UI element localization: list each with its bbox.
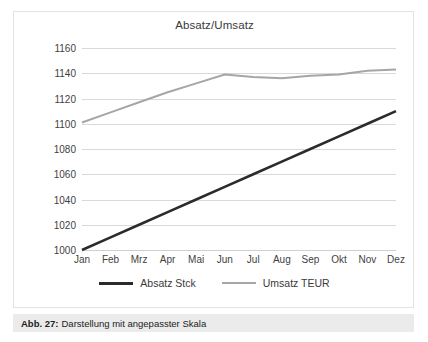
legend-swatch xyxy=(99,282,133,285)
y-axis-tick-label: 1120 xyxy=(32,93,76,104)
x-axis-tick-label: Nov xyxy=(359,254,377,265)
figure-caption-bar: Abb. 27: Darstellung mit angepasster Ska… xyxy=(13,314,414,332)
x-axis-tick-label: Jan xyxy=(74,254,90,265)
y-axis-tick-label: 1080 xyxy=(32,144,76,155)
chart-legend: Absatz StckUmsatz TEUR xyxy=(14,277,415,289)
x-axis-tick-label: Mrz xyxy=(131,254,148,265)
series-lines xyxy=(82,48,396,250)
legend-item[interactable]: Umsatz TEUR xyxy=(222,277,330,289)
y-axis-tick-label: 1140 xyxy=(32,68,76,79)
series-line xyxy=(82,69,396,122)
x-axis-tick-label: Mai xyxy=(188,254,204,265)
legend-label: Absatz Stck xyxy=(140,277,195,289)
x-axis-tick-label: Apr xyxy=(160,254,176,265)
legend-swatch xyxy=(222,282,256,284)
caption-text: Darstellung mit angepasster Skala xyxy=(61,318,206,329)
y-axis-tick-label: 1060 xyxy=(32,169,76,180)
x-axis-tick-labels: JanFebMrzAprMaiJunJulAugSepOktNovDez xyxy=(82,254,396,272)
x-axis-tick-label: Feb xyxy=(102,254,119,265)
x-axis-tick-label: Jun xyxy=(217,254,233,265)
figure-block: Absatz/Umsatz 11601140112011001080106010… xyxy=(13,11,416,332)
x-axis-tick-label: Aug xyxy=(273,254,291,265)
legend-item[interactable]: Absatz Stck xyxy=(99,277,195,289)
plot-area xyxy=(82,48,396,250)
series-line xyxy=(82,111,396,250)
y-axis-tick-label: 1160 xyxy=(32,43,76,54)
x-axis-tick-label: Jul xyxy=(247,254,260,265)
caption-number: Abb. 27: xyxy=(21,318,58,329)
gridline xyxy=(82,250,396,251)
chart-card: Absatz/Umsatz 11601140112011001080106010… xyxy=(13,11,414,308)
x-axis-tick-label: Sep xyxy=(301,254,319,265)
x-axis-tick-label: Dez xyxy=(387,254,405,265)
y-axis-tick-label: 1000 xyxy=(32,245,76,256)
y-axis-tick-label: 1040 xyxy=(32,194,76,205)
plot-wrapper: 116011401120110010801060104010201000 Jan… xyxy=(14,12,415,309)
y-axis-tick-label: 1100 xyxy=(32,118,76,129)
y-axis-tick-labels: 116011401120110010801060104010201000 xyxy=(30,48,76,250)
y-axis-tick-label: 1020 xyxy=(32,219,76,230)
x-axis-tick-label: Okt xyxy=(331,254,347,265)
legend-label: Umsatz TEUR xyxy=(263,277,330,289)
